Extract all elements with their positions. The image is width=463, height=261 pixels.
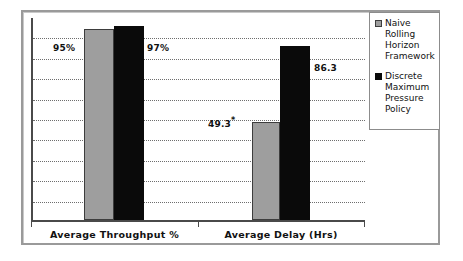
legend-label-naive-rolling-horizon-framework: Naive Rolling Horizon Framework: [385, 18, 435, 62]
bar-delay-dmp[interactable]: [280, 46, 310, 220]
legend-swatch-discrete-maximum-pressure-policy: [375, 73, 382, 80]
footnote-asterisk: *: [231, 116, 235, 125]
data-label-delay-dmp: 86.3: [314, 63, 337, 73]
category-label-average-throughput: Average Throughput %: [31, 229, 198, 240]
axis-tick: [364, 222, 365, 227]
data-label-throughput-naive: 95%: [53, 43, 75, 53]
legend-entry-naive-rolling-horizon-framework[interactable]: Naive Rolling Horizon Framework: [375, 18, 435, 62]
bar-delay-naive[interactable]: [252, 122, 280, 220]
data-label-delay-naive: 49.3*: [208, 119, 235, 129]
bar-throughput-dmp[interactable]: [114, 26, 144, 220]
category-label-average-delay: Average Delay (Hrs): [198, 229, 364, 240]
data-label-throughput-dmp: 97%: [147, 43, 169, 53]
legend-entry-discrete-maximum-pressure-policy[interactable]: Discrete Maximum Pressure Policy: [375, 71, 435, 115]
data-label-delay-naive-value: 49.3: [208, 119, 231, 129]
legend-label-discrete-maximum-pressure-policy: Discrete Maximum Pressure Policy: [385, 71, 429, 115]
legend-swatch-naive-rolling-horizon-framework: [375, 20, 382, 27]
category-axis: Average Throughput % Average Delay (Hrs): [31, 222, 365, 244]
axis-tick: [198, 222, 199, 227]
bar-chart: 95% 97% 49.3* 86.3 Average Throughput % …: [0, 0, 463, 261]
bars-layer: 95% 97% 49.3* 86.3: [33, 18, 365, 220]
plot-area: 95% 97% 49.3* 86.3: [31, 18, 365, 222]
legend: Naive Rolling Horizon Framework Discrete…: [369, 12, 440, 130]
axis-tick: [31, 222, 32, 227]
bar-throughput-naive[interactable]: [84, 29, 114, 220]
